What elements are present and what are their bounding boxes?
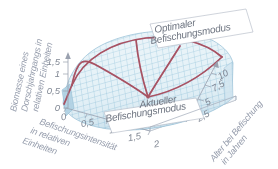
z-tick-1: 0,5 [47, 85, 61, 96]
surface-plot-figure: 0 0,5 1 1,5 0 0,5 1 1,5 2 2,5 5 7,5 10 B… [0, 0, 278, 169]
z-tick-2: 1 [55, 68, 60, 79]
